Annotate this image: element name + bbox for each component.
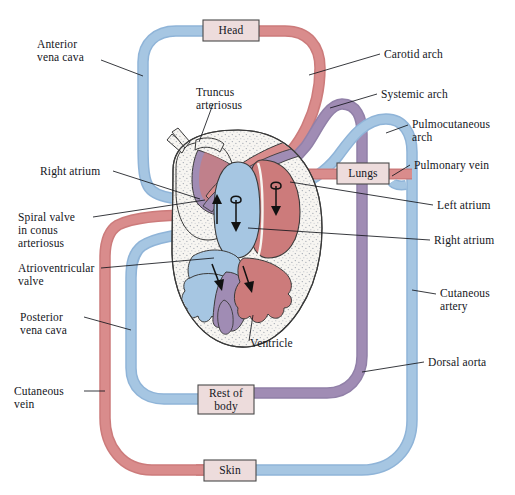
organ-box-label-lungs[interactable]: Lungs <box>337 167 389 180</box>
label-pulmonary-vein: Pulmonary vein <box>414 159 489 172</box>
right-atrium-chamber <box>214 162 260 258</box>
label-left-atrium: Left atrium <box>437 199 491 212</box>
label-carotid-arch: Carotid arch <box>384 48 443 61</box>
organ-box-label-skin[interactable]: Skin <box>204 464 256 477</box>
organ-box-label-rest-of-body[interactable]: Rest of body <box>198 387 254 412</box>
label-cutaneous-vein: Cutaneous vein <box>14 385 64 411</box>
label-right-atrium-left: Right atrium <box>40 165 100 178</box>
label-posterior-vena-cava: Posterior vena cava <box>20 311 67 337</box>
label-dorsal-aorta: Dorsal aorta <box>428 356 486 369</box>
label-systemic-arch: Systemic arch <box>381 88 448 101</box>
label-right-atrium-right: Right atrium <box>434 234 494 247</box>
label-atrioventricular-valve: Atrioventricular valve <box>18 262 94 288</box>
figure-canvas: Anterior vena cava Truncus arteriosus Ri… <box>0 0 515 495</box>
organ-box-label-head[interactable]: Head <box>203 24 259 37</box>
lung-inflow-stub <box>392 182 406 185</box>
label-spiral-valve-conus-arteriosus: Spiral valve in conus arteriosus <box>18 211 75 251</box>
leader-anterior-vena-cava <box>101 60 143 76</box>
label-ventricle: Ventricle <box>250 337 293 350</box>
label-truncus-arteriosus: Truncus arteriosus <box>196 86 242 112</box>
label-anterior-vena-cava: Anterior vena cava <box>37 38 84 64</box>
heart <box>167 128 330 347</box>
label-cutaneous-artery: Cutaneous artery <box>440 287 490 313</box>
label-pulmocutaneous-arch: Pulmocutaneous arch <box>412 118 490 144</box>
circulatory-diagram <box>0 0 515 495</box>
